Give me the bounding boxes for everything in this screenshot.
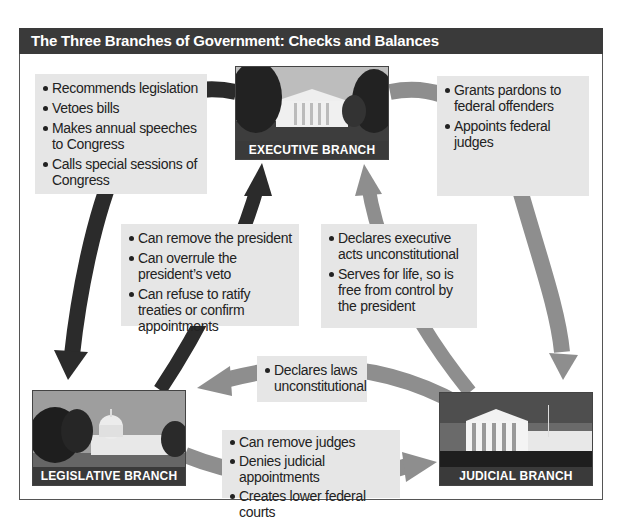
legislative-checks-on-executive: Can remove the president Can overrule th… bbox=[121, 224, 299, 326]
list-item: Declares executive acts unconstitutional bbox=[329, 230, 471, 262]
white-house-photo bbox=[236, 67, 388, 141]
arrow-head-executive-to-judicial bbox=[549, 353, 578, 380]
list-item: Recommends legislation bbox=[43, 80, 201, 96]
arrow-head-legislative-to-executive bbox=[244, 163, 272, 196]
legislative-checks-on-judicial: Can remove judges Denies judicial appoin… bbox=[222, 430, 400, 498]
judicial-checks-on-executive: Declares executive acts unconstitutional… bbox=[321, 224, 477, 328]
legislative-branch-card: LEGISLATIVE BRANCH bbox=[32, 390, 186, 486]
capitol-building-photo bbox=[33, 391, 185, 467]
arrow-head-judicial-to-executive bbox=[355, 164, 382, 196]
executive-branch-label: EXECUTIVE BRANCH bbox=[236, 141, 388, 159]
list-item: Appoints federal judges bbox=[445, 118, 583, 150]
arrow-head-legislative-to-judicial bbox=[402, 452, 437, 482]
list-item: Creates lower federal courts bbox=[230, 488, 394, 520]
executive-checks-on-judicial: Grants pardons to federal offenders Appo… bbox=[437, 76, 589, 196]
list-item: Calls special sessions of Congress bbox=[43, 156, 201, 188]
list-item: Can overrule the president’s veto bbox=[129, 250, 293, 282]
executive-checks-on-legislative: Recommends legislation Vetoes bills Make… bbox=[35, 74, 207, 194]
list-item: Can remove judges bbox=[230, 434, 394, 450]
list-item: Grants pardons to federal offenders bbox=[445, 82, 583, 114]
legislative-branch-label: LEGISLATIVE BRANCH bbox=[33, 467, 185, 485]
list-item: Can remove the president bbox=[129, 230, 293, 246]
list-item: Denies judicial appointments bbox=[230, 453, 394, 485]
list-item: Vetoes bills bbox=[43, 100, 201, 116]
arrow-head-judicial-to-legislative bbox=[197, 366, 232, 396]
judicial-checks-on-legislative: Declares laws unconstitutional bbox=[257, 356, 367, 402]
arrow-head-executive-to-legislative bbox=[54, 350, 88, 380]
executive-branch-card: EXECUTIVE BRANCH bbox=[235, 66, 389, 160]
list-item: Makes annual speeches to Congress bbox=[43, 120, 201, 152]
list-item: Serves for life, so is free from control… bbox=[329, 266, 471, 314]
judicial-branch-card: JUDICIAL BRANCH bbox=[439, 392, 593, 486]
list-item: Can refuse to ratify treaties or confirm… bbox=[129, 286, 293, 334]
supreme-court-photo bbox=[440, 393, 592, 467]
judicial-branch-label: JUDICIAL BRANCH bbox=[440, 467, 592, 485]
list-item: Declares laws unconstitutional bbox=[265, 362, 361, 394]
